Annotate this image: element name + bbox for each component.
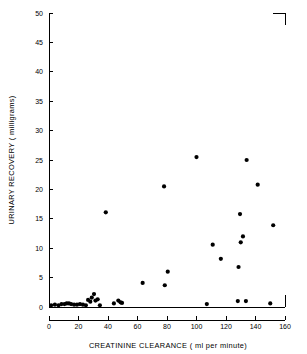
tick-labels: 0510152025303540455002040608010012014016… [35,10,291,330]
y-tick-label: 10 [35,245,43,252]
y-tick-label: 30 [35,127,43,134]
data-point [98,303,102,307]
data-point [49,303,53,307]
data-point [238,212,242,216]
data-point [104,210,108,214]
data-point [241,234,245,238]
data-point [141,281,145,285]
x-tick-label: 140 [250,323,262,330]
axis-corner-top-right [273,13,285,25]
data-points [49,155,275,307]
data-point [205,302,209,306]
data-point [163,283,167,287]
y-tick-label: 20 [35,186,43,193]
x-tick-label: 100 [191,323,203,330]
data-point [84,303,88,307]
y-axis-title: URINARY RECOVERY ( milligrams) [7,95,16,224]
data-point [256,183,260,187]
x-tick-label: 40 [104,323,112,330]
y-tick-label: 35 [35,98,43,105]
x-tick-label: 80 [163,323,171,330]
y-tick-label: 5 [39,274,43,281]
data-point [194,155,198,159]
data-point [245,158,249,162]
data-point [120,301,124,305]
x-tick-label: 160 [279,323,291,330]
data-point [53,303,57,307]
data-point [268,301,272,305]
data-point [211,243,215,247]
y-tick-label: 40 [35,68,43,75]
data-point [219,257,223,261]
axes [49,13,285,307]
x-axis-title: CREATININE CLEARANCE ( ml per minute) [89,341,247,350]
data-point [112,301,116,305]
y-tick-label: 50 [35,10,43,17]
data-point [162,184,166,188]
data-point [271,223,275,227]
data-point [244,299,248,303]
data-point [92,292,96,296]
y-tick-label: 45 [35,39,43,46]
x-tick-label: 20 [75,323,83,330]
y-tick-label: 25 [35,157,43,164]
data-point [90,295,94,299]
y-tick-label: 15 [35,215,43,222]
tick-marks [49,13,285,320]
y-tick-label: 0 [39,304,43,311]
data-point [236,265,240,269]
data-point [239,240,243,244]
x-tick-label: 0 [47,323,51,330]
data-point [236,299,240,303]
scatter-plot-figure: 0510152025303540455002040608010012014016… [0,0,307,354]
chart-canvas: 0510152025303540455002040608010012014016… [0,0,307,354]
data-point [88,300,92,304]
axis-spine-left-bottom [49,13,285,307]
data-point [96,297,100,301]
x-tick-label: 60 [134,323,142,330]
data-point [166,270,170,274]
x-tick-label: 120 [220,323,232,330]
